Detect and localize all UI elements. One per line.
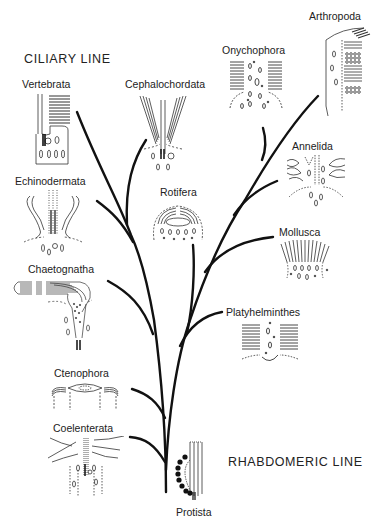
label-mollusca: Mollusca [279, 226, 320, 238]
ctenophora-illustration [50, 382, 120, 412]
chaetognatha-illustration [10, 278, 92, 358]
branch-chaetognatha [108, 281, 153, 334]
label-platyhelminthes: Platyhelminthes [226, 306, 300, 318]
ciliary-line-title: CILIARY LINE [24, 52, 111, 66]
label-cephalochordata: Cephalochordata [125, 78, 205, 90]
onychophora-illustration [228, 58, 288, 122]
rotifera-illustration [150, 200, 206, 250]
label-arthropoda: Arthropoda [309, 10, 361, 22]
vertebrata-illustration [32, 94, 72, 166]
annelida-illustration [285, 155, 347, 215]
branch-rotifera [187, 245, 194, 333]
label-coelenterata: Coelenterata [53, 422, 113, 434]
branch-onychophora [262, 128, 265, 160]
trunk-right [166, 96, 318, 470]
protista-illustration [174, 440, 208, 504]
branch-coelenterata [130, 437, 165, 462]
coelenterata-illustration [48, 436, 126, 498]
label-protista: Protista [176, 506, 212, 518]
rhabdomeric-line-title: RHABDOMERIC LINE [228, 455, 363, 469]
echinodermata-illustration [22, 190, 84, 258]
label-rotifera: Rotifera [160, 186, 197, 198]
mollusca-illustration [277, 240, 335, 282]
label-onychophora: Onychophora [222, 44, 285, 56]
label-annelida: Annelida [292, 140, 333, 152]
branch-ctenophora [132, 389, 165, 418]
platyhelminthes-illustration [240, 321, 302, 383]
label-chaetognatha: Chaetognatha [28, 263, 94, 275]
label-ctenophora: Ctenophora [54, 367, 109, 379]
label-vertebrata: Vertebrata [22, 78, 70, 90]
label-echinodermata: Echinodermata [15, 175, 86, 187]
branch-annelida [234, 181, 277, 215]
arthropoda-illustration [324, 26, 372, 116]
cephalochordata-illustration [138, 94, 188, 176]
